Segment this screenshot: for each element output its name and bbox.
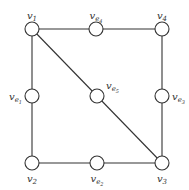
node-label-v2: v2 xyxy=(27,173,38,186)
node-label-ve4: ve4 xyxy=(90,10,103,24)
node-v3 xyxy=(155,156,169,170)
node-label-ve5: ve5 xyxy=(106,80,119,94)
node-label-v4: v4 xyxy=(157,10,167,23)
node-label-v1: v1 xyxy=(27,10,37,23)
node-ve4 xyxy=(89,22,103,36)
graph-diagram: v1ve4v4ve1ve5ve3v2ve2v3 xyxy=(0,0,189,190)
edge-ve5-v3 xyxy=(97,96,162,163)
node-label-ve2: ve2 xyxy=(91,173,104,187)
node-ve3 xyxy=(155,89,169,103)
node-label-ve3: ve3 xyxy=(172,91,185,105)
node-label-ve1: ve1 xyxy=(9,91,22,105)
node-v2 xyxy=(25,156,39,170)
node-ve1 xyxy=(25,89,39,103)
node-ve2 xyxy=(90,156,104,170)
node-v1 xyxy=(25,22,39,36)
node-label-v3: v3 xyxy=(157,173,168,186)
edge-v1-ve5 xyxy=(32,29,97,96)
node-ve5 xyxy=(90,89,104,103)
node-v4 xyxy=(155,22,169,36)
